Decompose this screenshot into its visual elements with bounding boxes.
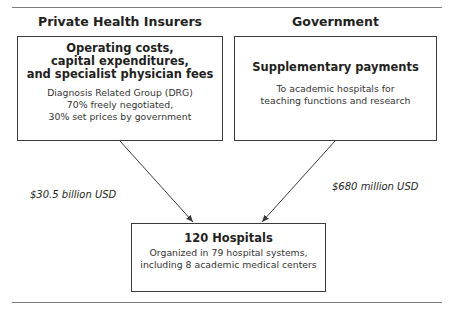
private-flow-amount: $30.5 billion USD: [30, 189, 116, 200]
hospitals-body: Organized in 79 hospital systems, includ…: [132, 247, 325, 271]
hospitals-body-line-1: Organized in 79 hospital systems,: [132, 247, 325, 259]
government-flow-amount: $680 million USD: [332, 181, 418, 192]
hospitals-body-line-2: including 8 academic medical centers: [132, 259, 325, 271]
government-to-hospitals-arrow: [262, 141, 335, 222]
hospitals-title: 120 Hospitals: [132, 232, 325, 245]
bottom-rule: [12, 302, 442, 303]
hospitals-box: 120 Hospitals Organized in 79 hospital s…: [131, 223, 326, 292]
private-to-hospitals-arrow: [120, 141, 193, 222]
